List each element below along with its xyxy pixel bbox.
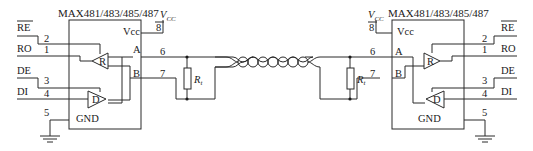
left-pin-4: 4 <box>44 88 50 99</box>
svg-text:D: D <box>92 94 100 105</box>
right-chip-title: MAX481/483/485/487 <box>388 7 489 19</box>
right-vcc-label: Vcc <box>397 26 414 37</box>
left-transceiver: MAX481/483/485/487 Vcc 8 VCC A B GND RE … <box>17 7 233 142</box>
left-de-label: DE <box>17 65 31 76</box>
right-pin-3: 3 <box>482 75 487 86</box>
left-pin-2: 2 <box>44 33 49 44</box>
right-di-label: DI <box>501 86 513 97</box>
right-pin-2: 2 <box>482 33 487 44</box>
right-pin-1: 1 <box>482 44 487 55</box>
svg-text:R: R <box>427 56 434 67</box>
left-re-label: RE <box>17 22 30 33</box>
right-gnd-label: GND <box>418 113 441 124</box>
svg-text:Rt: Rt <box>356 74 366 87</box>
right-ro-label: RO <box>501 43 516 54</box>
left-a-label: A <box>133 44 141 55</box>
right-pin-8: 8 <box>369 22 374 33</box>
left-chip-title: MAX481/483/485/487 <box>58 7 159 19</box>
svg-text:R: R <box>99 56 106 67</box>
svg-text:VCC: VCC <box>368 9 384 23</box>
right-b-label: B <box>395 68 402 79</box>
rs485-schematic: MAX481/483/485/487 Vcc 8 VCC A B GND RE … <box>0 0 533 151</box>
right-vcc-supply-label: VCC <box>368 9 384 23</box>
right-pin-4: 4 <box>482 88 488 99</box>
right-a-label: A <box>395 46 403 57</box>
right-transceiver: MAX481/483/485/487 Vcc 8 VCC A B GND 6 7… <box>368 7 517 142</box>
left-pin-1: 1 <box>44 44 49 55</box>
left-termination-resistor: Rt <box>184 55 203 100</box>
left-pin-7: 7 <box>160 68 165 79</box>
right-re-label: RE <box>501 22 514 33</box>
left-b-label: B <box>133 68 140 79</box>
left-pin-3: 3 <box>44 75 49 86</box>
svg-text:VCC: VCC <box>160 9 176 23</box>
twisted-pair-cable <box>215 57 320 67</box>
left-ro-label: RO <box>17 43 32 54</box>
right-pin-5: 5 <box>482 107 487 118</box>
left-vcc-label: Vcc <box>123 26 140 37</box>
left-pin-8: 8 <box>156 22 161 33</box>
left-vcc-supply-label: VCC <box>160 9 176 23</box>
left-gnd-label: GND <box>76 113 99 124</box>
right-pin-6: 6 <box>370 46 375 57</box>
left-pin-5: 5 <box>44 107 49 118</box>
left-pin-6: 6 <box>160 46 165 57</box>
right-de-label: DE <box>501 65 515 76</box>
svg-text:Rt: Rt <box>193 74 203 87</box>
svg-text:D: D <box>433 94 441 105</box>
left-di-label: DI <box>17 86 29 97</box>
right-pin-7: 7 <box>370 68 375 79</box>
